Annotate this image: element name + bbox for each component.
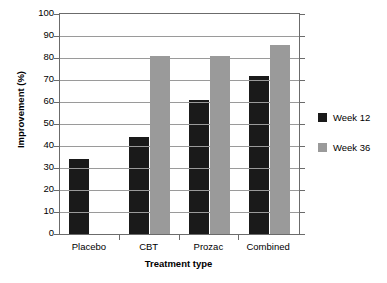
legend-item: Week 36 [318, 142, 387, 153]
legend-label: Week 12 [333, 112, 370, 123]
y-axis-tick-mark-right [300, 124, 305, 125]
y-axis-tick-mark-right [300, 102, 305, 103]
y-axis-tick-label: 50 [24, 118, 54, 128]
bar [150, 56, 170, 234]
y-axis-tick-label: 20 [24, 184, 54, 194]
y-axis-tick-label: 90 [24, 30, 54, 40]
y-axis-tick-mark-right [300, 14, 305, 15]
bar [270, 45, 290, 234]
y-axis-tick-label: 70 [24, 74, 54, 84]
chart-legend: Week 12Week 36 [318, 112, 387, 172]
x-axis-tick-label: CBT [119, 241, 179, 253]
y-axis-tick-label: 30 [24, 162, 54, 172]
x-axis-tick-mark [119, 234, 120, 240]
y-axis-tick-mark-right [300, 58, 305, 59]
x-axis-tick-label: Prozac [179, 241, 239, 253]
x-axis-tick-label: Combined [238, 241, 298, 253]
y-axis-tick-label: 0 [24, 228, 54, 238]
y-axis-tick-mark [54, 234, 59, 235]
y-axis-tick-mark-right [300, 212, 305, 213]
y-axis-tick-label: 80 [24, 52, 54, 62]
y-axis-tick-mark [54, 168, 59, 169]
y-axis-tick-label: 40 [24, 140, 54, 150]
y-axis-tick-mark [54, 190, 59, 191]
y-axis-tick-labels: 0102030405060708090100 [24, 13, 54, 233]
gridline [60, 190, 299, 191]
y-axis-tick-mark-right [300, 234, 305, 235]
y-axis-tick-label: 10 [24, 206, 54, 216]
legend-swatch-icon [318, 143, 327, 152]
y-axis-tick-mark [54, 146, 59, 147]
gridline [60, 80, 299, 81]
legend-swatch-icon [318, 113, 327, 122]
legend-item: Week 12 [318, 112, 387, 123]
y-axis-tick-mark [54, 80, 59, 81]
gridline [60, 36, 299, 37]
gridline [60, 124, 299, 125]
gridline [60, 102, 299, 103]
bar [129, 137, 149, 234]
y-axis-tick-mark [54, 124, 59, 125]
gridline [60, 146, 299, 147]
x-axis-title: Treatment type [59, 258, 298, 269]
y-axis-tick-mark [54, 14, 59, 15]
legend-label: Week 36 [333, 142, 370, 153]
y-axis-tick-mark-right [300, 190, 305, 191]
y-axis-tick-mark-right [300, 36, 305, 37]
gridline [60, 212, 299, 213]
bar-chart: Improvement (%) 0102030405060708090100 P… [0, 0, 387, 283]
y-axis-tick-label: 60 [24, 96, 54, 106]
bar [210, 56, 230, 234]
plot-area [59, 13, 300, 235]
y-axis-tick-mark-right [300, 80, 305, 81]
y-axis-tick-mark [54, 58, 59, 59]
gridline [60, 58, 299, 59]
x-axis-tick-label: Placebo [59, 241, 119, 253]
x-axis-tick-mark [179, 234, 180, 240]
y-axis-tick-label: 100 [24, 8, 54, 18]
y-axis-tick-mark [54, 36, 59, 37]
y-axis-tick-mark [54, 212, 59, 213]
y-axis-tick-mark [54, 102, 59, 103]
x-axis-tick-mark [238, 234, 239, 240]
x-axis-tick-labels: PlaceboCBTProzacCombined [59, 241, 298, 255]
bar [249, 76, 269, 234]
gridline [60, 168, 299, 169]
bar [69, 159, 89, 234]
y-axis-tick-mark-right [300, 146, 305, 147]
bar [189, 100, 209, 234]
y-axis-tick-mark-right [300, 168, 305, 169]
